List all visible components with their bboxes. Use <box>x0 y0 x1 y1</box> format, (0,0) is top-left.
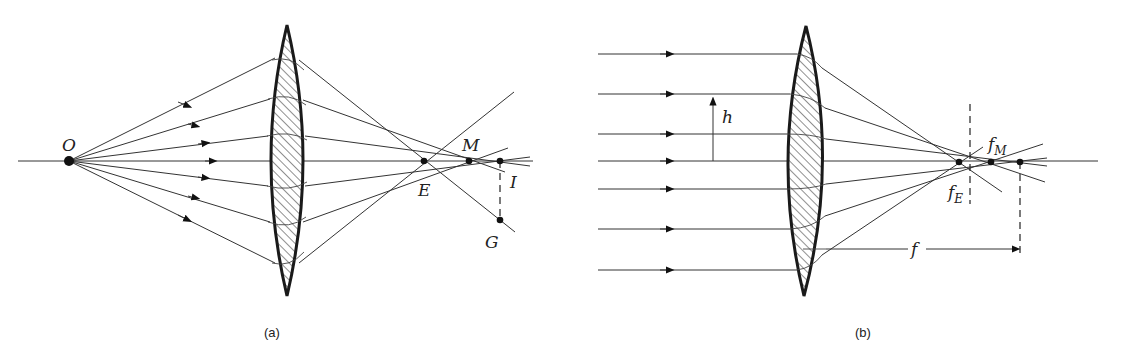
label-h: h <box>722 107 733 127</box>
point-fe <box>956 159 963 166</box>
label-fm: fM <box>986 134 1007 158</box>
lens-aberration-figure: O E M I G (a) h <box>0 0 1129 354</box>
label-o: O <box>62 135 76 155</box>
panel-a: O E M I G (a) <box>18 25 533 340</box>
caption-a: (a) <box>264 325 280 340</box>
lens-a <box>271 25 303 296</box>
label-i: I <box>509 172 517 192</box>
point-i <box>497 158 504 165</box>
point-e <box>421 158 428 165</box>
label-fe: fE <box>946 182 963 206</box>
label-g: G <box>485 232 499 252</box>
point-f <box>1017 159 1024 166</box>
point-g <box>497 217 504 224</box>
incoming-rays-b <box>598 54 797 270</box>
lens-b <box>788 26 823 296</box>
caption-b: (b) <box>855 325 871 340</box>
label-m: M <box>461 135 480 155</box>
point-m <box>466 158 473 165</box>
point-fm <box>988 159 995 166</box>
panel-b: h f fE fM ( <box>598 26 1098 340</box>
label-f: f <box>909 239 920 259</box>
label-e: E <box>417 180 431 200</box>
object-point-o <box>64 156 74 166</box>
